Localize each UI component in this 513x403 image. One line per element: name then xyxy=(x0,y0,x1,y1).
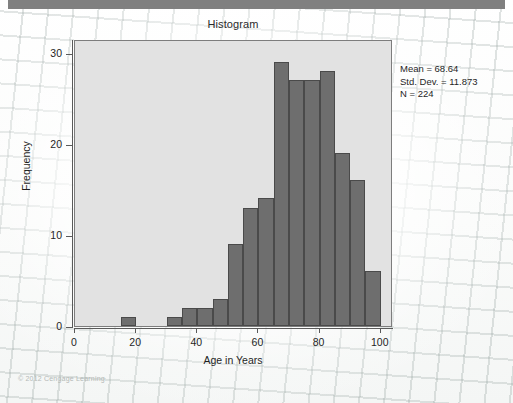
y-tick-label: 10 xyxy=(36,229,62,241)
x-tick-mark xyxy=(74,328,75,333)
histogram-bar xyxy=(258,198,273,326)
histogram-bar xyxy=(274,62,289,326)
x-tick-label: 60 xyxy=(237,336,277,348)
histogram-figure: Histogram 0102030 Frequency 020406080100… xyxy=(0,0,513,403)
y-tick-label: 0 xyxy=(36,320,62,332)
chart-title: Histogram xyxy=(74,18,392,30)
histogram-bar xyxy=(167,317,182,326)
x-tick-label: 80 xyxy=(299,336,339,348)
slide-page: Histogram 0102030 Frequency 020406080100… xyxy=(0,0,513,403)
histogram-bar xyxy=(304,80,319,326)
y-axis-title: Frequency xyxy=(20,116,32,216)
y-tick-mark xyxy=(66,327,72,328)
x-tick-mark xyxy=(196,328,197,333)
histogram-bar xyxy=(335,153,350,326)
x-tick-mark xyxy=(257,328,258,333)
histogram-bar xyxy=(182,308,197,326)
y-tick-mark xyxy=(66,145,72,146)
x-tick-mark xyxy=(319,328,320,333)
histogram-bar xyxy=(197,308,212,326)
y-tick-mark xyxy=(66,236,72,237)
y-axis-line xyxy=(72,40,73,328)
x-tick-label: 20 xyxy=(115,336,155,348)
y-tick-label: 20 xyxy=(36,138,62,150)
x-tick-mark xyxy=(380,328,381,333)
histogram-bar xyxy=(243,208,258,326)
x-axis-line xyxy=(74,328,393,329)
x-tick-label: 40 xyxy=(176,336,216,348)
histogram-bars xyxy=(75,41,391,326)
stat-mean: Mean = 68.64 xyxy=(400,63,478,76)
plot-area xyxy=(74,40,392,327)
histogram-bar xyxy=(320,71,335,326)
statistics-annotation: Mean = 68.64 Std. Dev. = 11.873 N = 224 xyxy=(400,63,478,101)
x-axis-title: Age in Years xyxy=(74,354,392,366)
stat-std-dev: Std. Dev. = 11.873 xyxy=(400,76,478,89)
x-tick-label: 100 xyxy=(360,336,400,348)
histogram-bar xyxy=(121,317,136,326)
y-tick-mark xyxy=(66,54,72,55)
histogram-bar xyxy=(213,299,228,326)
histogram-bar xyxy=(350,180,365,326)
copyright-notice: © 2012 Cengage Learning xyxy=(18,375,105,382)
x-tick-label: 0 xyxy=(54,336,94,348)
histogram-bar xyxy=(289,80,304,326)
y-tick-label: 30 xyxy=(36,47,62,59)
histogram-bar xyxy=(365,271,380,326)
stat-n: N = 224 xyxy=(400,88,478,101)
histogram-bar xyxy=(228,244,243,326)
x-tick-mark xyxy=(135,328,136,333)
